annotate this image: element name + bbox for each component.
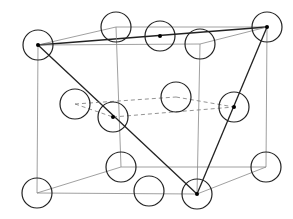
atom-I — [219, 92, 249, 122]
atoms-layer — [22, 12, 282, 209]
bond-A-D — [38, 44, 200, 45]
bonds-layer — [37, 27, 267, 194]
bond-B-J — [116, 27, 121, 167]
crystal-structure-diagram — [0, 0, 293, 219]
bond-D-N — [197, 44, 200, 194]
atom-G — [98, 102, 128, 132]
bond-N-K — [197, 167, 266, 194]
bond-L-N — [37, 193, 197, 194]
bond-E-K — [266, 27, 267, 167]
bond-E-N — [197, 27, 267, 194]
bond-H-I — [176, 97, 234, 107]
bond-A-L — [37, 45, 38, 193]
atom-M — [134, 176, 164, 206]
bond-L-J — [37, 167, 121, 193]
